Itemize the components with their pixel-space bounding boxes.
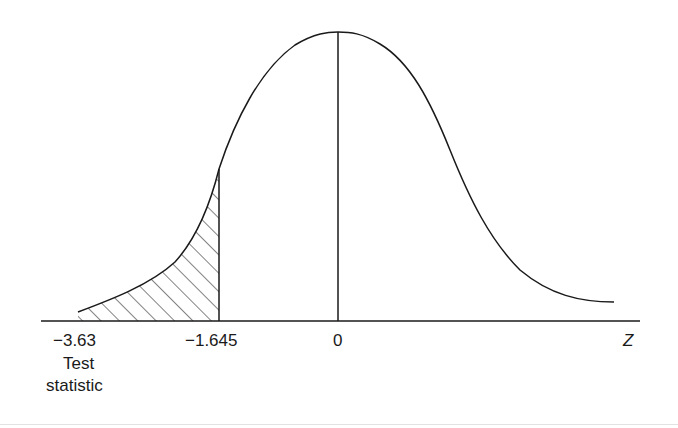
bottom-divider — [0, 424, 678, 425]
test-statistic-caption-line1: Test — [63, 354, 94, 374]
test-statistic-caption-line2: statistic — [46, 376, 103, 396]
rejection-region-hatch — [70, 160, 225, 325]
tick-label-test-statistic: −3.63 — [53, 331, 96, 351]
axis-label-z: Z — [623, 331, 633, 351]
tick-label-critical-value: −1.645 — [185, 331, 237, 351]
tick-label-zero: 0 — [333, 331, 342, 351]
normal-distribution-chart: −3.63 Test statistic −1.645 0 Z — [0, 0, 678, 428]
chart-svg — [0, 0, 678, 428]
normal-curve — [78, 32, 614, 312]
